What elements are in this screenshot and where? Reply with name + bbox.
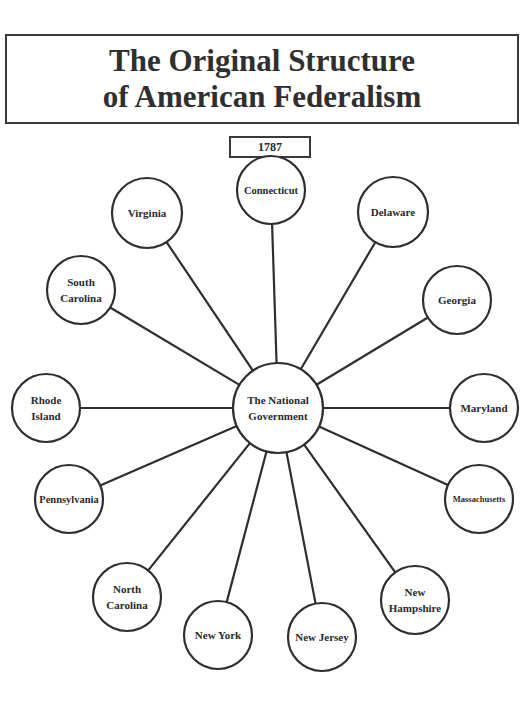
node-national-government: The NationalGovernment [233,363,323,453]
node-circle [233,363,323,453]
node-rhode-island: RhodeIsland [12,374,80,442]
edge-massachusetts [319,427,448,485]
node-new-jersey: New Jersey [288,603,356,671]
node-label: Carolina [106,599,148,611]
edge-new-jersey [286,452,315,603]
nodes-layer: ConnecticutVirginiaDelawareSouthCarolina… [12,156,518,671]
node-circle [93,563,161,631]
edge-delaware [301,242,376,369]
edge-new-hampshire [304,445,395,573]
node-label: New York [195,629,242,641]
node-new-hampshire: NewHampshire [381,566,449,634]
edge-south-carolina [110,307,239,384]
node-delaware: Delaware [358,177,428,247]
node-maryland: Maryland [450,374,518,442]
node-circle [381,566,449,634]
node-label: New Jersey [295,631,349,643]
node-label: The National [247,394,308,406]
edge-pennsylvania [100,426,237,485]
node-connecticut: Connecticut [237,156,305,224]
node-label: Government [248,410,308,422]
edge-new-york [227,452,267,603]
edge-north-carolina [148,443,250,570]
node-circle [47,256,115,324]
node-label: Island [31,410,60,422]
node-label: Massachusetts [453,494,506,504]
node-label: Delaware [371,206,416,218]
node-label: Virginia [128,207,167,219]
edge-virginia [167,242,253,371]
edge-connecticut [272,224,276,363]
federalism-diagram: ConnecticutVirginiaDelawareSouthCarolina… [0,0,529,707]
node-massachusetts: Massachusetts [445,465,513,533]
node-pennsylvania: Pennsylvania [35,465,103,533]
node-north-carolina: NorthCarolina [93,563,161,631]
node-label: South [67,276,95,288]
node-label: Connecticut [244,185,299,196]
node-label: Carolina [60,292,102,304]
node-georgia: Georgia [423,266,491,334]
node-label: Georgia [438,294,476,306]
node-label: New [405,586,426,598]
node-label: Pennsylvania [39,494,99,505]
node-label: North [113,583,141,595]
node-label: Rhode [31,394,62,406]
node-label: Maryland [460,402,507,414]
edge-georgia [317,318,428,385]
node-new-york: New York [184,601,252,669]
node-virginia: Virginia [112,178,182,248]
node-circle [12,374,80,442]
node-label: Hampshire [389,602,441,614]
node-south-carolina: SouthCarolina [47,256,115,324]
